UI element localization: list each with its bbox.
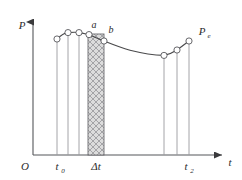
- diagram-canvas: P t O t 0 Δt t 2 a b P e: [0, 0, 242, 180]
- tick-label-t2-sub: 2: [190, 167, 194, 175]
- data-point-marker-a: [86, 31, 92, 37]
- data-point-marker: [65, 29, 71, 35]
- data-point-marker-pe: [186, 38, 192, 44]
- delta-t-band: [88, 34, 104, 155]
- point-label-pe-base: P: [198, 25, 206, 37]
- tick-label-t2: t 2: [184, 160, 194, 175]
- tick-label-delta-t: Δt: [90, 160, 101, 172]
- data-point-marker-b: [101, 38, 107, 44]
- point-labels-group: a b P e: [92, 19, 211, 40]
- data-point-marker: [76, 29, 82, 35]
- data-point-marker: [54, 36, 60, 42]
- axes-group: [33, 22, 222, 155]
- tick-label-delta-t-base: Δt: [90, 160, 101, 172]
- point-label-pe: P e: [198, 25, 211, 40]
- tick-labels-group: t 0 Δt t 2: [55, 160, 194, 175]
- origin-label: O: [21, 160, 29, 172]
- point-label-a: a: [92, 19, 97, 30]
- x-axis-label: t: [228, 156, 232, 168]
- tick-label-t0-sub: 0: [61, 167, 65, 175]
- point-label-b: b: [109, 24, 114, 35]
- power-curve: [57, 32, 189, 55]
- delta-t-band-rect: [88, 34, 104, 155]
- point-label-pe-sub: e: [207, 32, 210, 40]
- power-time-diagram: P t O t 0 Δt t 2 a b P e: [0, 0, 242, 180]
- data-markers-group: [54, 29, 192, 58]
- tick-label-t0-base: t: [55, 160, 59, 172]
- tick-label-t0: t 0: [55, 160, 65, 175]
- data-point-marker: [174, 47, 180, 53]
- y-axis-label: P: [18, 19, 26, 31]
- data-point-marker: [161, 52, 167, 58]
- droplines-group: [57, 32, 189, 155]
- tick-label-t2-base: t: [184, 160, 188, 172]
